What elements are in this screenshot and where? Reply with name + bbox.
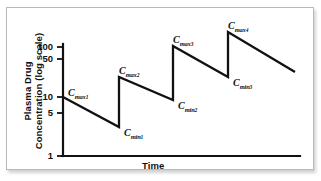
y-tick-label-10: 10	[31, 91, 53, 102]
annotation-cmax2-letter: C	[119, 65, 126, 76]
annotation-cmin1-letter: C	[124, 127, 131, 138]
figure-root: Plasma Drug Concentration (log scale) Ti…	[0, 0, 321, 181]
annotation-cmax1-sub: max	[75, 93, 86, 100]
annotation-cmin3: Cmin3	[233, 77, 252, 90]
y-tick-label-1: 1	[31, 150, 53, 161]
annotation-cmax1: Cmax1	[68, 87, 88, 100]
annotation-cmax3: Cmax3	[173, 34, 193, 47]
annotation-cmin2: Cmin2	[178, 100, 197, 113]
annotation-cmin2-sub: min	[185, 106, 195, 113]
annotation-cmin3-index: 3	[250, 84, 253, 90]
annotation-cmax1-letter: C	[68, 87, 75, 98]
x-axis-title: Time	[142, 160, 164, 171]
annotation-cmin1-sub: min	[131, 133, 141, 140]
annotation-cmin1: Cmin1	[124, 127, 143, 140]
annotation-cmax3-index: 3	[191, 41, 194, 47]
annotation-cmax3-letter: C	[173, 34, 180, 45]
annotation-cmax2-index: 2	[137, 72, 140, 78]
annotation-cmin3-sub: min	[240, 83, 250, 90]
annotation-cmin2-letter: C	[178, 100, 185, 111]
annotation-cmax2: Cmax2	[119, 65, 139, 78]
annotation-cmin1-index: 1	[141, 134, 144, 140]
y-tick-label-100: 100	[31, 41, 53, 52]
annotation-cmax4-sub: max	[235, 26, 246, 33]
y-tick-label-50: 50	[31, 53, 53, 64]
annotation-cmax4-index: 4	[246, 27, 249, 33]
annotation-cmax3-sub: max	[180, 40, 191, 47]
annotation-cmin2-index: 2	[195, 107, 198, 113]
annotation-cmin3-letter: C	[233, 77, 240, 88]
annotation-cmax4-letter: C	[228, 20, 235, 31]
y-tick-label-5: 5	[31, 107, 53, 118]
annotation-cmax4: Cmax4	[228, 20, 248, 33]
annotation-cmax1-index: 1	[86, 94, 89, 100]
annotation-cmax2-sub: max	[126, 71, 137, 78]
